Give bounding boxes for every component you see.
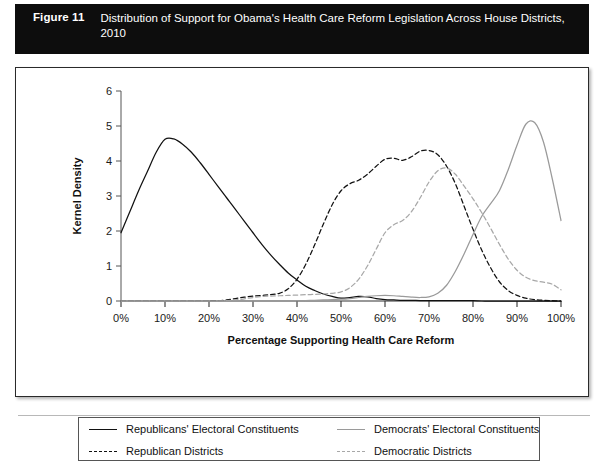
y-tick-label: 5: [106, 120, 112, 132]
x-tick-label: 100%: [547, 312, 575, 324]
x-tick-label: 90%: [506, 312, 528, 324]
page-bottom-rule: [18, 415, 590, 416]
x-tick-label: 50%: [330, 312, 352, 324]
dashed-gray-line-icon: [337, 451, 365, 452]
legend-label: Republicans' Electoral Constituents: [126, 423, 299, 435]
figure-title-bar: Figure 11 Distribution of Support for Ob…: [15, 4, 589, 54]
legend-item-democratic-districts[interactable]: Democratic Districts: [331, 441, 545, 461]
chart-series: [121, 121, 561, 301]
y-tick-label: 2: [106, 225, 112, 237]
x-tick-label: 30%: [242, 312, 264, 324]
chart-labels: 01234560%10%20%30%40%50%60%70%80%90%100%…: [71, 85, 575, 346]
x-tick-label: 40%: [286, 312, 308, 324]
legend-item-democrats-electoral-constituents[interactable]: Democrats' Electoral Constituents: [331, 419, 545, 439]
chart-svg: 01234560%10%20%30%40%50%60%70%80%90%100%…: [16, 68, 588, 396]
chart-legend: Republicans' Electoral Constituents Demo…: [78, 417, 540, 461]
kernel-density-chart: 01234560%10%20%30%40%50%60%70%80%90%100%…: [16, 68, 588, 396]
y-tick-label: 3: [106, 190, 112, 202]
legend-item-republican-districts[interactable]: Republican Districts: [83, 441, 331, 461]
x-tick-label: 0%: [113, 312, 129, 324]
series-line-republicans-electoral-constituents: [121, 138, 561, 301]
x-tick-label: 80%: [462, 312, 484, 324]
legend-item-republicans-electoral-constituents[interactable]: Republicans' Electoral Constituents: [83, 419, 331, 439]
y-tick-label: 4: [106, 155, 112, 167]
y-tick-label: 0: [106, 295, 112, 307]
x-tick-label: 70%: [418, 312, 440, 324]
legend-label: Democrats' Electoral Constituents: [374, 423, 539, 435]
solid-gray-line-icon: [337, 429, 365, 430]
legend-label: Democratic Districts: [374, 445, 472, 457]
y-tick-label: 1: [106, 260, 112, 272]
x-tick-label: 20%: [198, 312, 220, 324]
y-tick-label: 6: [106, 85, 112, 97]
x-tick-label: 10%: [154, 312, 176, 324]
figure-caption: Distribution of Support for Obama's Heal…: [100, 11, 575, 41]
figure-number: Figure 11: [33, 11, 84, 23]
dashed-black-line-icon: [89, 451, 117, 452]
x-axis-title: Percentage Supporting Health Care Reform: [228, 334, 455, 346]
x-tick-label: 60%: [374, 312, 396, 324]
series-line-republican-districts: [121, 150, 561, 301]
legend-label: Republican Districts: [126, 445, 223, 457]
figure-card: 01234560%10%20%30%40%50%60%70%80%90%100%…: [15, 67, 589, 397]
y-axis-title: Kernel Density: [71, 157, 83, 235]
solid-black-line-icon: [89, 429, 117, 430]
series-line-democratic-districts: [121, 168, 561, 301]
